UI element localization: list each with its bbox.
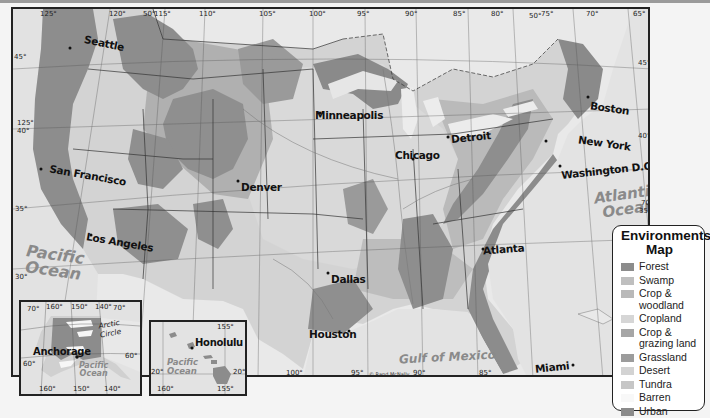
urban-swatch-icon [621,408,634,416]
latitude-label: 70° [27,305,39,313]
tundra-swatch-icon [621,381,634,389]
legend-item-urban: Urban [621,406,698,418]
grassland-swatch-icon [621,354,634,362]
alaska-inset-map: 70° 160° 150° 140° 70° Arctic Circle Anc… [19,300,142,396]
longitude-label: 95° [357,10,369,18]
latitude-label: 70° [113,304,125,312]
longitude-label: 100° [309,10,326,18]
longitude-label: 75° [541,10,553,18]
longitude-label: 90° [405,10,417,18]
latitude-label: 20° [233,368,245,376]
hawaii-inset-map: 155° Honolulu 20° 20° Pacific Ocean 160°… [149,320,247,396]
legend-item-cropland: Cropland [621,313,698,325]
legend-item-grassland: Grassland [621,352,698,364]
top-edge-strip [0,0,710,3]
city-label-anchorage: Anchorage [33,346,91,357]
longitude-label: 160° [39,385,56,393]
alaska-ocean-line2: Ocean [79,370,108,378]
legend-label: Tundra [639,379,672,391]
longitude-label: 140° [95,303,112,311]
barren-swatch-icon [621,394,634,402]
cropland-swatch-icon [621,315,634,323]
longitude-label: 100° [286,369,303,377]
legend-label-line1: Crop & [639,287,672,299]
legend-title: Environments Map [621,229,698,257]
latitude-label: 20° [151,368,163,376]
latitude-label: 30° [15,273,27,281]
longitude-label: 110° [199,10,216,18]
legend-label-line2: woodland [639,299,684,311]
city-label-honolulu: Honolulu [195,337,243,348]
longitude-label: 150° [71,303,88,311]
latitude-label: 60° [125,352,137,360]
legend-title-line2: Map [621,243,698,257]
legend-label-line1: Crop & [639,326,672,338]
forest-swatch-icon [621,263,634,271]
longitude-label: 70° [586,10,598,18]
legend-label: Cropland [639,313,682,325]
legend-title-line1: Environments [621,229,698,243]
longitude-label: 155° [217,323,234,331]
longitude-label: 105° [259,10,276,18]
legend-label: Crop & woodland [639,288,684,311]
latitude-label: 45° [14,53,26,61]
latitude-label: 60° [23,360,35,368]
legend-item-forest: Forest [621,261,698,273]
longitude-label: 80° [491,10,503,18]
pacific-ocean-label: Pacific Ocean [23,243,85,283]
environments-legend: Environments Map Forest Swamp Crop & woo… [612,225,705,411]
latitude-label: 35° [15,205,27,213]
latitude-label: 40° [638,132,650,140]
legend-item-desert: Desert [621,365,698,377]
legend-item-barren: Barren [621,392,698,404]
city-label-houston: Houston [309,328,356,340]
longitude-label: 150° [73,385,90,393]
crop-grazing-swatch-icon [621,329,634,337]
legend-item-swamp: Swamp [621,275,698,287]
legend-label: Forest [639,261,669,273]
longitude-label: 70° [641,199,650,207]
latitude-label: 45° [638,59,650,67]
hawaii-pacific-ocean-label: Pacific Ocean [167,358,198,375]
longitude-label: 125° [17,119,34,127]
legend-item-crop-grazing: Crop & grazing land [621,327,698,350]
legend-label-line2: grazing land [639,337,696,349]
longitude-label: 160° [46,303,63,311]
city-label-dallas: Dallas [331,273,366,285]
city-label-denver: Denver [241,181,282,193]
hawaii-ocean-line2: Ocean [167,367,198,376]
longitude-label: 90° [413,369,425,377]
longitude-label: 65° [633,10,645,18]
copyright-text: © Rand McNally [369,371,410,377]
longitude-label: 85° [479,369,491,377]
longitude-label: 160° [157,385,174,393]
legend-label: Grassland [639,352,687,364]
longitude-label: 125° [40,10,57,18]
longitude-label: 95° [351,369,363,377]
legend-label: Urban [639,406,668,418]
legend-label: Barren [639,392,671,404]
alaska-pacific-ocean-label: Pacific Ocean [79,362,108,378]
longitude-label: 155° [217,385,234,393]
city-label-minneapolis: Minneapolis [315,109,383,121]
longitude-label: 115° [154,10,171,18]
longitude-label: 120° [109,10,126,18]
longitude-label: 140° [104,385,121,393]
legend-label: Desert [639,365,670,377]
legend-item-crop-woodland: Crop & woodland [621,288,698,311]
latitude-label: 50° [529,12,541,20]
legend-item-tundra: Tundra [621,379,698,391]
latitude-label: 35° [639,207,650,215]
swamp-swatch-icon [621,277,634,285]
city-label-chicago: Chicago [395,149,440,161]
legend-label: Swamp [639,275,674,287]
crop-woodland-swatch-icon [621,290,634,298]
latitude-label: 40° [17,127,29,135]
longitude-label: 85° [453,10,465,18]
legend-label: Crop & grazing land [639,327,696,350]
desert-swatch-icon [621,367,634,375]
